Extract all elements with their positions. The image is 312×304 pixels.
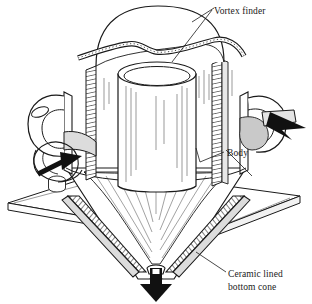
vortex-finder-tube [118,62,196,192]
cyclone-separator-figure: Vortex finder Body Ceramic lined bottom … [0,0,312,304]
label-bottom-cone-line2: bottom cone [228,282,276,292]
label-bottom-cone-line1: Ceramic lined [228,269,283,279]
cyclone-diagram-svg: Vortex finder Body Ceramic lined bottom … [0,0,312,304]
label-vortex-finder: Vortex finder [214,6,266,16]
label-body: Body [227,148,248,158]
